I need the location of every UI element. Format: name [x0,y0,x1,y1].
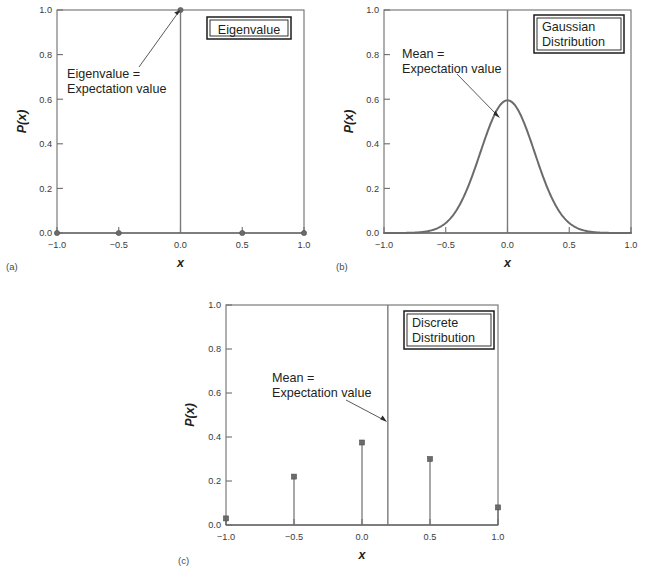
panel-gaussian: 0.0 0.2 0.4 0.6 0.8 1.0 −1.0 −0.5 0.0 0.… [330,0,656,292]
x-axis-tick-labels-a: −1.0 −0.5 0.0 0.5 1.0 [48,240,310,250]
annotation-b: Mean = Expectation value [402,47,501,76]
y-axis-title: P(x) [342,110,356,134]
data-point [240,230,245,235]
annotation-line: Expectation value [272,386,371,400]
y-axis-ticks-b [384,10,390,233]
data-point [301,230,306,235]
x-tick-label: 0.5 [563,240,576,250]
x-tick-label: 0.0 [501,240,514,250]
panel-label-box-c: Discrete Distribution [404,311,494,349]
x-tick-label: −0.5 [110,240,128,250]
annotation-c: Mean = Expectation value [272,371,371,400]
stem-marker [224,516,229,521]
x-tick-label: 1.0 [492,532,505,542]
annotation-line: Expectation value [402,62,501,76]
annotation-leader-c [346,400,387,422]
panel-label-box-a: Eigenvalue [207,17,291,39]
annotation-a: Eigenvalue = Expectation value [67,67,166,96]
annotation-leader-b [457,74,500,118]
x-axis-tick-labels-b: −1.0 −0.5 0.0 0.5 1.0 [375,240,637,250]
panel-eigenvalue: 0.0 0.2 0.4 0.6 0.8 1.0 −1.0 −0.5 0.0 0.… [0,0,330,292]
panel-letter-c: (c) [178,555,189,566]
stem-marker [292,474,297,479]
x-axis-title: x [176,256,185,270]
y-tick-label: 0.2 [366,184,379,194]
y-tick-label: 0.8 [39,50,52,60]
panel-box-label: Gaussian [542,20,595,34]
x-tick-label: −1.0 [217,532,235,542]
data-point [116,230,121,235]
x-tick-label: −1.0 [375,240,393,250]
panel-b-svg: 0.0 0.2 0.4 0.6 0.8 1.0 −1.0 −0.5 0.0 0.… [330,0,656,292]
data-point [54,230,59,235]
y-tick-label: 0.2 [39,184,52,194]
y-tick-label: 1.0 [208,300,221,310]
y-tick-label: 0.0 [366,228,379,238]
y-tick-label: 1.0 [366,5,379,15]
x-tick-label: 0.5 [236,240,249,250]
x-axis-title: x [358,548,367,562]
y-tick-label: 0.6 [39,95,52,105]
x-tick-label: 0.0 [356,532,369,542]
x-tick-label: 1.0 [298,240,311,250]
discrete-stems [224,440,501,525]
y-axis-tick-labels-a: 0.0 0.2 0.4 0.6 0.8 1.0 [39,5,52,238]
y-axis-tick-labels-c: 0.0 0.2 0.4 0.6 0.8 1.0 [208,300,221,530]
y-tick-label: 0.0 [39,228,52,238]
y-tick-label: 0.0 [208,520,221,530]
stem-marker [496,505,501,510]
annotation-line: Mean = [402,47,444,61]
figure-root: 0.0 0.2 0.4 0.6 0.8 1.0 −1.0 −0.5 0.0 0.… [0,0,656,586]
y-axis-title: P(x) [183,403,197,427]
y-tick-label: 0.8 [208,344,221,354]
panel-label-box-b: Gaussian Distribution [534,15,624,53]
annotation-leader-a [139,10,181,67]
y-tick-label: 0.8 [366,50,379,60]
panel-letter-a: (a) [6,261,18,272]
annotation-line: Expectation value [67,82,166,96]
panel-a-svg: 0.0 0.2 0.4 0.6 0.8 1.0 −1.0 −0.5 0.0 0.… [0,0,330,292]
stem-marker [428,457,433,462]
y-tick-label: 0.2 [208,476,221,486]
y-tick-label: 0.4 [208,432,221,442]
stem-marker [360,440,365,445]
x-axis-title: x [503,256,512,270]
x-tick-label: −1.0 [48,240,66,250]
annotation-line: Eigenvalue = [67,67,140,81]
x-tick-label: 0.0 [174,240,187,250]
panel-box-label: Eigenvalue [218,23,280,37]
y-tick-label: 0.4 [366,139,379,149]
panel-letter-b: (b) [336,261,348,272]
x-axis-tick-labels-c: −1.0 −0.5 0.0 0.5 1.0 [217,532,504,542]
y-axis-ticks-a [57,10,63,233]
panel-discrete: 0.0 0.2 0.4 0.6 0.8 1.0 −1.0 −0.5 0.0 0.… [150,292,550,586]
y-tick-label: 0.6 [366,95,379,105]
y-axis-ticks-c [226,305,232,525]
y-axis-title: P(x) [15,110,29,134]
panel-c-svg: 0.0 0.2 0.4 0.6 0.8 1.0 −1.0 −0.5 0.0 0.… [150,292,550,586]
x-tick-label: −0.5 [437,240,455,250]
panel-box-label: Discrete [412,316,458,330]
x-tick-label: 1.0 [625,240,638,250]
x-tick-label: 0.5 [424,532,437,542]
x-tick-label: −0.5 [285,532,303,542]
annotation-line: Mean = [272,371,314,385]
y-axis-tick-labels-b: 0.0 0.2 0.4 0.6 0.8 1.0 [366,5,379,238]
y-tick-label: 1.0 [39,5,52,15]
y-tick-label: 0.4 [39,139,52,149]
y-tick-label: 0.6 [208,388,221,398]
panel-box-label: Distribution [542,35,605,49]
panel-box-label: Distribution [412,331,475,345]
